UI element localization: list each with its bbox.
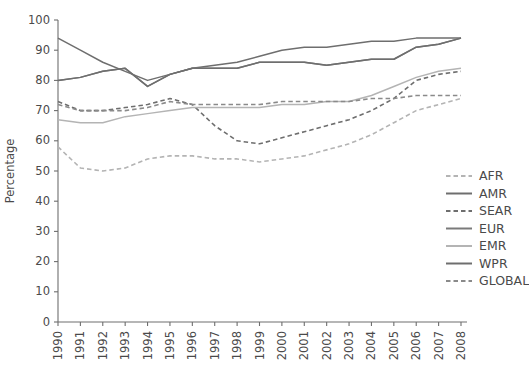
x-tick-label: 2005 xyxy=(387,331,401,360)
legend-label-eur: EUR xyxy=(479,221,505,236)
y-tick-label: 30 xyxy=(35,224,50,238)
x-tick-label: 2006 xyxy=(409,331,423,360)
line-chart: 0102030405060708090100Percentage19901991… xyxy=(0,0,529,372)
y-tick-label: 40 xyxy=(35,194,50,208)
series-line-emr xyxy=(58,68,461,122)
y-tick-label: 90 xyxy=(35,43,50,57)
y-tick-label: 10 xyxy=(35,284,50,298)
x-tick-label: 1994 xyxy=(141,331,155,360)
y-tick-label: 80 xyxy=(35,73,50,87)
x-tick-label: 2001 xyxy=(297,331,311,360)
y-tick-label: 0 xyxy=(43,315,50,329)
legend-label-amr: AMR xyxy=(479,186,507,201)
x-tick-label: 2002 xyxy=(320,331,334,360)
series-line-wpr xyxy=(58,38,461,86)
chart-container: 0102030405060708090100Percentage19901991… xyxy=(0,0,529,372)
legend-label-wpr: WPR xyxy=(479,256,508,271)
y-tick-label: 50 xyxy=(35,164,50,178)
x-tick-label: 2008 xyxy=(454,331,468,360)
series-line-afr xyxy=(58,99,461,171)
y-tick-label: 20 xyxy=(35,254,50,268)
x-tick-label: 1993 xyxy=(118,331,132,360)
x-tick-label: 2000 xyxy=(275,331,289,360)
legend-label-sear: SEAR xyxy=(479,203,512,218)
x-tick-label: 2007 xyxy=(432,331,446,360)
x-tick-label: 1991 xyxy=(73,331,87,360)
y-axis-title: Percentage xyxy=(3,139,17,204)
x-tick-label: 1996 xyxy=(185,331,199,360)
x-tick-label: 1999 xyxy=(253,331,267,360)
series-line-amr xyxy=(58,38,461,80)
x-tick-label: 1992 xyxy=(96,331,110,360)
x-tick-label: 1998 xyxy=(230,331,244,360)
legend-label-emr: EMR xyxy=(479,238,507,253)
y-tick-label: 60 xyxy=(35,133,50,147)
y-tick-label: 70 xyxy=(35,103,50,117)
legend-label-global: GLOBAL xyxy=(479,273,529,288)
y-tick-label: 100 xyxy=(28,13,50,27)
x-tick-label: 1995 xyxy=(163,331,177,360)
x-tick-label: 2004 xyxy=(364,331,378,360)
legend-label-afr: AFR xyxy=(479,168,504,183)
x-tick-label: 1990 xyxy=(51,331,65,360)
x-tick-label: 2003 xyxy=(342,331,356,360)
x-tick-label: 1997 xyxy=(208,331,222,360)
